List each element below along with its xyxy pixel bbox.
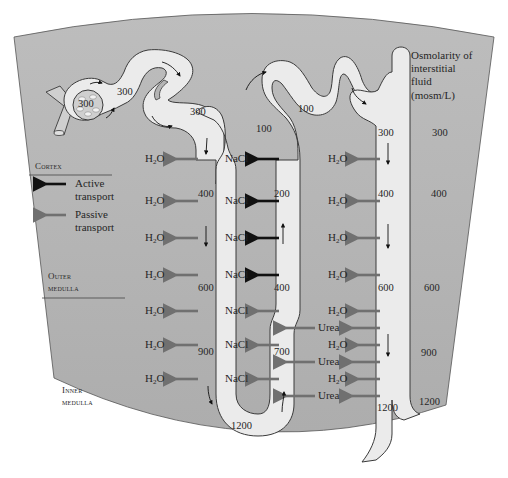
water-label: H2O	[328, 153, 347, 166]
zone-label-outer-medulla: Outermedulla	[48, 270, 79, 294]
water-label: H2O	[328, 373, 347, 386]
nacl-label: NaCl	[225, 153, 248, 164]
nacl-label: NaCl	[225, 305, 248, 316]
glomerulus-value: 300	[78, 99, 94, 110]
interstitial-value-300: 300	[432, 128, 448, 139]
interstitial-value-600: 600	[424, 283, 440, 294]
collecting-value-400: 400	[378, 189, 394, 200]
legend-passive-label: Passivetransport	[75, 208, 114, 233]
nacl-label: NaCl	[225, 269, 248, 280]
water-label: H2O	[328, 339, 347, 352]
descending-value-900: 900	[198, 347, 214, 358]
osmolarity-title: Osmolarity ofinterstitialfluid(mosm/L)	[411, 49, 472, 102]
ascending-value-200: 200	[274, 189, 290, 200]
ascending-value-100: 100	[256, 124, 272, 135]
countercurrent-diagram: Cortex Outermedulla Innermedulla Activet…	[0, 0, 508, 478]
water-label: H2O	[328, 195, 347, 208]
water-label: H2O	[145, 269, 164, 282]
water-label: H2O	[328, 269, 347, 282]
interstitial-value-400: 400	[431, 189, 447, 200]
ascending-value-700: 700	[274, 347, 290, 358]
loop-bottom-value: 1200	[231, 421, 252, 432]
water-label: H2O	[145, 232, 164, 245]
water-label: H2O	[145, 305, 164, 318]
collecting-value-600: 600	[378, 283, 394, 294]
water-label: H2O	[145, 373, 164, 386]
descending-value-600: 600	[198, 283, 214, 294]
water-label: H2O	[328, 232, 347, 245]
urea-label: Urea	[318, 390, 339, 401]
nacl-label: NaCl	[225, 195, 248, 206]
interstitial-value-1200: 1200	[419, 397, 440, 408]
water-label: H2O	[328, 305, 347, 318]
distal-value-100: 100	[298, 104, 314, 115]
zone-label-cortex: Cortex	[35, 160, 62, 172]
urea-label: Urea	[318, 356, 339, 367]
zone-label-inner-medulla: Innermedulla	[62, 384, 93, 408]
ascending-value-400: 400	[274, 283, 290, 294]
proximal-value: 300	[117, 87, 133, 98]
collecting-value-1200: 1200	[377, 403, 398, 414]
nacl-label: NaCl	[225, 339, 248, 350]
water-label: H2O	[145, 153, 164, 166]
legend-active-label: Activetransport	[75, 177, 114, 202]
collecting-value-300: 300	[378, 128, 394, 139]
nacl-label: NaCl	[225, 373, 248, 384]
descending-value-400: 400	[198, 189, 214, 200]
water-label: H2O	[145, 195, 164, 208]
nacl-label: NaCl	[225, 232, 248, 243]
proximal-exit-value: 300	[190, 107, 206, 118]
water-label: H2O	[145, 339, 164, 352]
urea-label: Urea	[318, 322, 339, 333]
interstitial-value-900: 900	[421, 348, 437, 359]
